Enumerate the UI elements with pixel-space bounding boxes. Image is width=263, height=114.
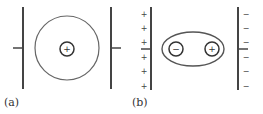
minus-sign: −: [243, 38, 250, 47]
panel-b-positive-charges: + + + + + +: [141, 10, 148, 91]
plus-sign: +: [141, 38, 148, 47]
plus-sign: +: [141, 82, 148, 91]
panel-a: + (a): [4, 7, 121, 109]
capacitor-polarization-diagram: + (a) + + + + + + − + − − − − − − (b): [0, 0, 263, 114]
plus-sign: +: [141, 53, 148, 62]
panel-b-positive-sign: +: [208, 44, 216, 54]
panel-a-label: (a): [4, 96, 19, 109]
plus-sign: +: [141, 67, 148, 76]
panel-b: + + + + + + − + − − − − − − (b): [132, 7, 249, 109]
minus-sign: −: [243, 24, 250, 33]
plus-sign: +: [141, 24, 148, 33]
panel-b-negative-sign: −: [172, 44, 180, 54]
panel-b-label: (b): [132, 96, 148, 109]
minus-sign: −: [243, 82, 250, 91]
plus-sign: +: [141, 10, 148, 19]
minus-sign: −: [243, 53, 250, 62]
panel-a-nucleus-sign: +: [63, 44, 71, 54]
minus-sign: −: [243, 10, 250, 19]
panel-b-negative-charges: − − − − − −: [243, 10, 250, 91]
minus-sign: −: [243, 67, 250, 76]
